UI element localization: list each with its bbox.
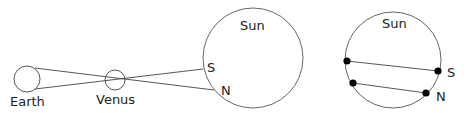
- north-label-left: N: [221, 83, 231, 98]
- south-label-right: S: [447, 65, 455, 80]
- transit-dot-south-egress: [434, 67, 441, 74]
- earth-label: Earth: [10, 94, 45, 109]
- transit-path-south: [347, 61, 438, 71]
- venus-label: Venus: [96, 92, 135, 107]
- south-label-left: S: [207, 60, 215, 75]
- transit-dot-south-ingress: [343, 57, 350, 64]
- transit-dots: [343, 57, 441, 96]
- sun-label-left: Sun: [240, 18, 265, 33]
- transit-paths: [347, 61, 438, 93]
- transit-path-north: [353, 83, 426, 93]
- sun-label-right: Sun: [382, 16, 407, 31]
- earth-circle: [14, 66, 40, 92]
- north-label-right: N: [436, 89, 446, 104]
- venus-transit-diagram: Earth Venus Sun S N Sun S N: [0, 0, 468, 113]
- transit-dot-north-ingress: [349, 79, 356, 86]
- transit-dot-north-egress: [422, 89, 429, 96]
